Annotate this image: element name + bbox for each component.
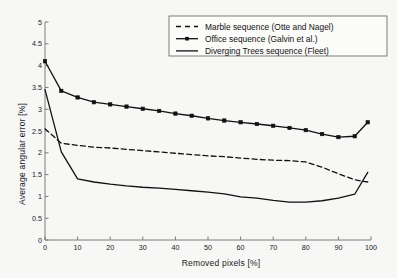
figure-container: Average angular error [%] Removed pixels… xyxy=(0,0,397,278)
x-tick-label: 30 xyxy=(139,243,147,252)
series-marker xyxy=(92,101,95,104)
series-marker xyxy=(76,96,79,99)
series-marker xyxy=(190,114,193,117)
series-marker xyxy=(60,89,63,92)
y-tick-label: 3.5 xyxy=(32,83,42,92)
x-tick-label: 40 xyxy=(171,243,179,252)
series-marker xyxy=(109,103,112,106)
series-marker xyxy=(353,135,356,138)
y-tick-label: 2 xyxy=(38,148,42,157)
series-marker xyxy=(125,105,128,108)
y-tick-label: 4.5 xyxy=(32,39,42,48)
series-line xyxy=(45,129,368,182)
legend-entry-label: Marble sequence (Otte and Nagel) xyxy=(205,22,334,32)
legend-entry-label: Diverging Trees sequence (Fleet) xyxy=(205,46,329,56)
y-tick-label: 4 xyxy=(38,61,42,70)
y-axis-label: Average angular error [%] xyxy=(17,103,27,205)
y-tick-label: 3 xyxy=(38,105,42,114)
series-marker xyxy=(337,135,340,138)
series-marker xyxy=(157,109,160,112)
y-tick-label: 1 xyxy=(38,192,42,201)
series-marker xyxy=(43,60,46,63)
x-tick-label: 10 xyxy=(74,243,82,252)
series-marker xyxy=(223,119,226,122)
series-line xyxy=(45,90,368,202)
series-marker xyxy=(272,124,275,127)
series-line xyxy=(45,61,368,137)
series-marker xyxy=(320,132,323,135)
data-series-group xyxy=(43,60,369,203)
series-marker xyxy=(304,128,307,131)
y-tick-label: 0.5 xyxy=(32,214,42,223)
x-tick-label: 20 xyxy=(106,243,114,252)
series-marker xyxy=(239,121,242,124)
x-tick-label: 60 xyxy=(237,243,245,252)
y-tick-label: 2.5 xyxy=(32,127,42,136)
series-marker xyxy=(141,107,144,110)
x-tick-label: 50 xyxy=(204,243,212,252)
x-tick-label: 100 xyxy=(365,243,377,252)
series-marker xyxy=(174,112,177,115)
y-tick-label: 5 xyxy=(38,18,42,27)
y-axis-label-container: Average angular error [%] xyxy=(2,0,20,278)
y-tick-label: 0 xyxy=(38,236,42,245)
series-marker xyxy=(255,122,258,125)
x-axis-label: Removed pixels [%] xyxy=(0,258,397,268)
y-tick-label: 1.5 xyxy=(32,170,42,179)
x-axis-label-text: Removed pixels [%] xyxy=(182,258,261,268)
series-marker xyxy=(366,121,369,124)
x-tick-label: 0 xyxy=(43,243,47,252)
series-marker xyxy=(206,117,209,120)
legend-entry-label: Office sequence (Galvin et al.) xyxy=(205,34,318,44)
series-marker xyxy=(288,126,291,129)
legend-box: Marble sequence (Otte and Nagel)Office s… xyxy=(169,16,387,56)
x-tick-label: 80 xyxy=(302,243,310,252)
legend-marker-sample xyxy=(185,37,189,41)
x-tick-label: 90 xyxy=(334,243,342,252)
x-tick-label: 70 xyxy=(269,243,277,252)
chart-plot: 010203040506070809010000.511.522.533.544… xyxy=(0,0,397,278)
